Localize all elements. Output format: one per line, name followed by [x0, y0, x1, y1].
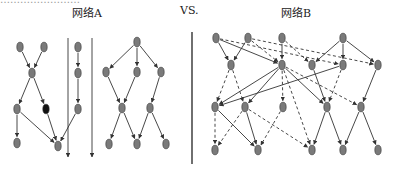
edge	[345, 112, 359, 145]
node	[75, 42, 81, 52]
edge	[219, 43, 229, 60]
node	[134, 139, 140, 149]
highlighted-node	[43, 104, 49, 114]
node	[242, 102, 248, 112]
node	[29, 68, 35, 78]
node	[213, 33, 219, 43]
edge	[124, 77, 135, 103]
node	[41, 42, 47, 52]
node	[75, 68, 81, 78]
node	[375, 60, 381, 70]
node	[309, 145, 315, 155]
node	[158, 67, 164, 77]
edge	[220, 40, 278, 64]
edge	[234, 42, 245, 60]
edge	[249, 69, 279, 103]
node	[340, 145, 346, 155]
node	[134, 67, 140, 77]
node	[119, 103, 125, 113]
node	[55, 141, 61, 151]
edge	[20, 112, 54, 142]
node	[14, 104, 20, 114]
node	[134, 37, 140, 47]
network-b-edges	[215, 39, 376, 147]
node	[280, 102, 286, 112]
edge	[363, 70, 376, 101]
dashed-edge	[217, 70, 229, 101]
dashed-edge	[252, 41, 278, 62]
dashed-edge	[284, 70, 310, 144]
node	[212, 102, 218, 112]
dashed-edge	[286, 67, 357, 105]
node	[255, 145, 261, 155]
dashed-edge	[233, 70, 243, 101]
edge	[247, 112, 257, 144]
edge	[124, 113, 135, 139]
dashed-edge	[282, 71, 283, 101]
network-b-nodes	[212, 33, 381, 155]
edge	[19, 78, 30, 104]
node	[279, 60, 285, 70]
node	[212, 145, 218, 155]
node	[279, 33, 285, 43]
network-comparison-diagram	[0, 0, 394, 174]
edge	[218, 110, 254, 146]
dashed-edge	[329, 70, 341, 101]
edge	[110, 45, 134, 68]
node	[163, 139, 169, 149]
edge	[152, 77, 160, 102]
node	[147, 103, 153, 113]
edge	[347, 41, 374, 62]
edge	[314, 112, 325, 144]
node	[106, 139, 112, 149]
edge	[152, 113, 163, 139]
node	[245, 33, 251, 43]
node	[324, 102, 330, 112]
node	[228, 60, 234, 70]
network-a-edges	[17, 38, 164, 157]
node	[340, 60, 346, 70]
edge	[22, 52, 29, 68]
edge	[34, 78, 44, 103]
dashed-edge	[249, 109, 308, 147]
edge	[140, 46, 158, 68]
dashed-edge	[220, 39, 338, 64]
edge	[139, 113, 148, 138]
edge	[108, 77, 119, 103]
dashed-edge	[285, 41, 308, 61]
edge	[363, 112, 376, 144]
edge	[48, 114, 56, 140]
node	[309, 60, 315, 70]
node	[75, 104, 81, 114]
network-a-nodes	[14, 37, 169, 151]
dashed-edge	[218, 111, 242, 145]
node	[103, 67, 109, 77]
node	[358, 102, 364, 112]
node	[375, 145, 381, 155]
edge	[34, 52, 41, 68]
edge	[111, 113, 120, 138]
node	[17, 42, 23, 52]
node	[14, 138, 20, 148]
edge	[316, 41, 340, 62]
node	[340, 33, 346, 43]
edge	[329, 112, 341, 144]
